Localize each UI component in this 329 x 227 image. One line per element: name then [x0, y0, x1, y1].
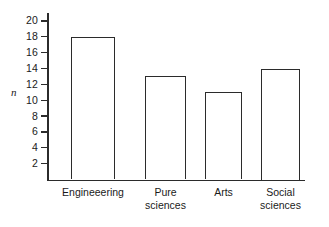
bar	[145, 76, 186, 179]
y-axis-label: n	[11, 86, 17, 98]
y-axis-tick	[41, 115, 47, 116]
y-axis-tick	[41, 147, 47, 148]
y-axis-tick	[41, 131, 47, 132]
y-axis-tick	[41, 36, 47, 37]
category-label: Social sciences	[236, 186, 326, 211]
y-axis-tick-label: 14	[26, 63, 38, 74]
x-axis-line	[47, 180, 305, 182]
bar	[261, 69, 300, 180]
y-axis-tick-label: 2	[32, 158, 38, 169]
y-axis-tick	[41, 100, 47, 101]
bar	[205, 92, 242, 179]
y-axis-tick-label: 12	[26, 79, 38, 90]
y-axis-tick-label: 8	[32, 111, 38, 122]
y-axis-tick	[41, 84, 47, 85]
y-axis-tick	[41, 20, 47, 21]
bar	[71, 37, 115, 180]
y-axis-tick	[41, 68, 47, 69]
y-axis-line	[47, 13, 49, 181]
bar-chart: n 2468101214161820 EngineeeringPure scie…	[0, 0, 329, 227]
y-axis-tick	[41, 163, 47, 164]
y-axis-tick-label: 10	[26, 95, 38, 106]
y-axis-tick-label: 4	[32, 142, 38, 153]
y-axis-tick-label: 18	[26, 31, 38, 42]
y-axis-tick-label: 6	[32, 126, 38, 137]
y-axis-tick-label: 16	[26, 47, 38, 58]
y-axis-tick	[41, 52, 47, 53]
y-axis-tick-label: 20	[26, 15, 38, 26]
